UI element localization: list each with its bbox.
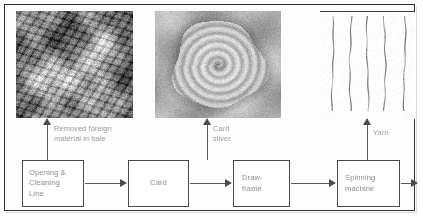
arrow-head-right-icon — [225, 179, 232, 187]
yarn-photo — [320, 11, 415, 119]
arrow-shaft — [367, 125, 368, 160]
card-sliver-photo — [155, 11, 281, 118]
arrow-shaft — [190, 183, 225, 184]
process-box-card[interactable]: Card — [128, 160, 189, 207]
arrow-head-up-icon — [363, 118, 371, 125]
arrow-shaft — [85, 183, 120, 184]
arrow-opening-to-photo — [43, 118, 52, 160]
arrow-head-up-icon — [203, 118, 211, 125]
process-box-draw-frame[interactable]: Draw- frame — [233, 160, 290, 207]
callout-label-card-sliver: Card sliver — [213, 124, 263, 143]
process-box-opening-cleaning-line[interactable]: Opening & Cleaning Line — [22, 160, 84, 207]
foreign-material-photo — [16, 11, 133, 118]
arrow-card-to-photo — [203, 118, 212, 160]
callout-label-yarn: Yarn — [373, 128, 413, 138]
callout-label-removed-foreign-material: Removed foreign material in bale — [54, 124, 138, 143]
diagram-page: Removed foreign material in bale Card sl… — [0, 0, 423, 219]
arrow-head-right-icon — [329, 179, 336, 187]
arrow-head-right-icon — [411, 179, 418, 187]
arrow-shaft — [401, 183, 411, 184]
arrow-shaft — [207, 125, 208, 160]
arrow-opening-to-card — [85, 179, 127, 188]
arrow-card-to-drawframe — [190, 179, 232, 188]
process-box-spinning-machine[interactable]: Spinning machine — [337, 160, 400, 207]
arrow-head-right-icon — [120, 179, 127, 187]
arrow-spinning-to-output — [401, 179, 418, 188]
arrow-shaft — [47, 125, 48, 160]
arrow-spinning-to-photo — [363, 118, 372, 160]
arrow-drawframe-to-spinning — [291, 179, 336, 188]
arrow-head-up-icon — [43, 118, 51, 125]
arrow-shaft — [291, 183, 329, 184]
